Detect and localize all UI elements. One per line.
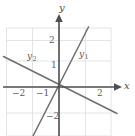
x-tick-label-pos2: 2 xyxy=(97,89,103,98)
curve-y1 xyxy=(33,27,89,136)
curve-label-y2-base: y xyxy=(27,51,32,61)
x-tick-label-neg2: −2 xyxy=(12,89,25,98)
curve-y2 xyxy=(4,57,118,114)
y-tick-label-pos1: 1 xyxy=(51,61,57,70)
curve-label-y1-subscript: 1 xyxy=(85,53,89,61)
y-tick-label-neg2: −2 xyxy=(46,112,59,121)
curve-label-y2: y2 xyxy=(27,52,36,61)
curve-label-y1: y1 xyxy=(79,50,88,59)
graph-figure: −2 −1 2 2 1 −2 y x y1 y2 xyxy=(0,0,135,136)
x-tick-label-neg1: −1 xyxy=(36,89,49,98)
x-axis-label: x xyxy=(124,81,130,91)
y-tick-label-pos2: 2 xyxy=(49,36,55,45)
coordinate-plane-svg xyxy=(0,0,135,136)
curve-label-y2-subscript: 2 xyxy=(33,55,37,63)
y-axis-label: y xyxy=(59,3,65,13)
curve-label-y1-base: y xyxy=(79,49,84,59)
